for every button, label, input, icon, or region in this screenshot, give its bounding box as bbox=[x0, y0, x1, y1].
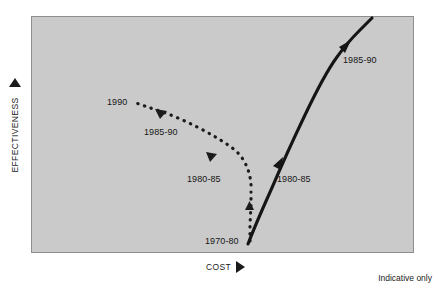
annotation-1990: 1990 bbox=[107, 97, 127, 107]
chart-figure: 1990 1985-90 1980-85 1970-80 1980-85 198… bbox=[0, 0, 441, 295]
figure-caption: Indicative only bbox=[378, 273, 432, 283]
triangle-right-icon bbox=[236, 261, 245, 273]
x-axis: COST bbox=[206, 261, 245, 273]
annotation-dotted-1970-80: 1970-80 bbox=[205, 236, 239, 246]
annotation-solid-1985-90: 1985-90 bbox=[343, 55, 377, 65]
x-axis-label: COST bbox=[206, 262, 231, 272]
plot-area bbox=[31, 16, 414, 253]
y-axis-label: EFFECTIVENESS bbox=[10, 75, 20, 195]
annotation-solid-1980-85: 1980-85 bbox=[277, 174, 311, 184]
annotation-dotted-1985-90: 1985-90 bbox=[144, 127, 178, 137]
y-axis: EFFECTIVENESS bbox=[0, 78, 26, 218]
annotation-dotted-1980-85: 1980-85 bbox=[187, 174, 221, 184]
